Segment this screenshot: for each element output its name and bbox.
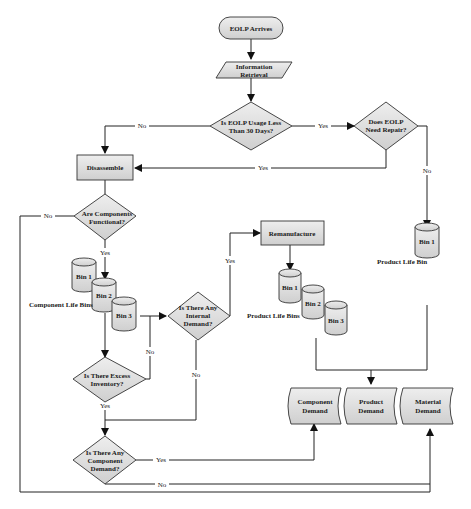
edge-repair-no <box>418 126 427 227</box>
edge-label-internal-no: No <box>192 371 201 379</box>
product-bin-2-label: Bin 2 <box>305 300 321 308</box>
node-internal-label-1: Is There Any <box>179 304 218 312</box>
node-functional-label-1: Are Components <box>82 210 133 218</box>
product-bin-1: Bin 1 <box>279 269 301 303</box>
edge-label-usage-yes: Yes <box>318 122 328 130</box>
edge-label-compdemand-yes: Yes <box>156 456 166 464</box>
node-components-functional: Are Components Functional? <box>74 194 136 240</box>
flowchart: No Yes Yes No No Yes Yes No No Yes Yes N… <box>0 0 471 509</box>
node-component-demand-label-2: Demand <box>302 407 327 415</box>
product-life-bins: Bin 1 Bin 2 Bin 3 Product Life Bins <box>247 269 347 335</box>
component-life-bins-label: Component Life Bins <box>29 301 93 309</box>
component-bin-1-label: Bin 1 <box>76 273 92 281</box>
node-component-demand-check: Is There Any Component Demand? <box>73 436 136 484</box>
component-bin-3: Bin 3 <box>112 297 136 331</box>
node-excess-label-2: Inventory? <box>90 380 124 388</box>
node-start-label: EOLP Arrives <box>230 25 273 33</box>
product-bin-3: Bin 3 <box>325 301 347 335</box>
node-compcheck-label-2: Component <box>87 457 123 465</box>
product-bin-3-label: Bin 3 <box>328 317 344 325</box>
node-repair-label-1: Does EOLP <box>368 118 404 126</box>
edge-label-repair-no: No <box>423 167 432 175</box>
node-start: EOLP Arrives <box>219 17 283 39</box>
node-info-label-2: Retrieval <box>240 71 268 79</box>
component-life-bins: Bin 1 Bin 2 Bin 3 Component Life Bins <box>29 258 136 331</box>
component-bin-3-label: Bin 3 <box>116 312 132 320</box>
product-bin-2: Bin 2 <box>302 285 324 319</box>
product-life-bins-label: Product Life Bins <box>247 312 300 320</box>
node-usage-label-2: Than 30 Days? <box>229 127 274 135</box>
node-component-demand: Component Demand <box>288 388 341 424</box>
node-component-demand-label-1: Component <box>297 398 333 406</box>
node-usage-label-1: Is EOLP Usage Less <box>221 119 282 127</box>
product-life-bin-single: Bin 1 Product Life Bin <box>377 223 439 266</box>
edge-usage-no <box>105 126 210 153</box>
node-remanufacture: Remanufacture <box>261 221 324 245</box>
node-material-demand: Material Demand <box>400 388 453 424</box>
node-product-demand-label-1: Product <box>359 398 384 406</box>
node-functional-label-2: Functional? <box>89 218 125 226</box>
node-remanufacture-label: Remanufacture <box>269 230 316 238</box>
edge-label-internal-yes: Yes <box>225 257 235 265</box>
edge-internal-yes <box>230 233 260 316</box>
product-life-bin-label: Product Life Bin <box>377 258 427 266</box>
node-internal-label-2: Internal <box>186 312 211 320</box>
component-bin-2-label: Bin 2 <box>96 292 112 300</box>
edge-label-repair-yes: Yes <box>258 164 268 172</box>
edge-compdemand-yes <box>136 424 314 460</box>
edge-label-excess-no: No <box>146 348 155 356</box>
edge-label-compdemand-no: No <box>158 481 167 489</box>
node-excess-label-1: Is There Excess <box>84 372 131 380</box>
node-internal-label-3: Demand? <box>184 320 213 328</box>
node-material-demand-label-2: Demand <box>415 407 440 415</box>
edge-label-functional-yes: Yes <box>100 249 110 257</box>
node-info-retrieval: Information Retrieval <box>216 62 292 79</box>
node-product-demand-label-2: Demand <box>358 407 383 415</box>
node-repair-label-2: Need Repair? <box>365 126 407 134</box>
node-usage-check: Is EOLP Usage Less Than 30 Days? <box>210 102 292 150</box>
node-internal-demand: Is There Any Internal Demand? <box>168 292 230 340</box>
node-info-label-1: Information <box>236 63 273 71</box>
edge-label-usage-no: No <box>138 122 147 130</box>
node-compcheck-label-1: Is There Any <box>86 449 125 457</box>
node-excess-inventory: Is There Excess Inventory? <box>73 357 146 402</box>
node-compcheck-label-3: Demand? <box>91 465 120 473</box>
node-repair-check: Does EOLP Need Repair? <box>354 102 418 150</box>
node-material-demand-label-1: Material <box>415 398 441 406</box>
node-product-demand: Product Demand <box>344 388 397 424</box>
product-single-bin-label: Bin 1 <box>419 238 435 246</box>
product-bin-1-label: Bin 1 <box>282 284 298 292</box>
node-disassemble-label: Disassemble <box>87 164 124 172</box>
edge-label-excess-yes: Yes <box>100 402 110 410</box>
node-disassemble: Disassemble <box>77 155 133 180</box>
edge-label-functional-no: No <box>44 212 53 220</box>
